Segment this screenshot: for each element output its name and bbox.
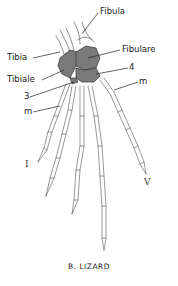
label-tibiale: Tibiale [7, 75, 35, 84]
tarsal-bones [58, 46, 100, 84]
figure-caption: B. LIZARD [0, 262, 178, 271]
tarsal-4-bone [76, 68, 100, 82]
label-metatarsal-left: m [24, 107, 32, 116]
label-digit-I: I [25, 160, 29, 169]
label-tarsal-4: 4 [129, 63, 134, 72]
label-digit-V: V [144, 178, 151, 187]
label-tibia: Tibia [7, 53, 27, 62]
tibiale-bone [58, 50, 78, 78]
foot-skeleton-drawing [0, 0, 178, 286]
label-fibula: Fibula [100, 7, 125, 16]
label-metatarsal-right: m [139, 77, 147, 86]
fibula-bone [74, 22, 80, 44]
label-fibulare: Fibulare [122, 45, 156, 54]
lizard-foot-diagram: Fibula Tibia Fibulare Tibiale 4 3 m m I … [0, 0, 178, 286]
digits [38, 78, 146, 250]
label-tarsal-3: 3 [24, 92, 29, 101]
